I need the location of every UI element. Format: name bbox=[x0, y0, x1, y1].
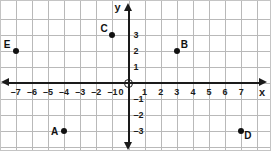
x-tick-label-3: 3 bbox=[174, 88, 179, 97]
y-axis-label: y bbox=[115, 2, 121, 13]
tick-and-axis-labels: –7–6–5–4–3–2–11234567321–1–2–30xy bbox=[0, 0, 271, 151]
x-tick-label--5: –5 bbox=[43, 88, 53, 97]
y-tick-label--2: –2 bbox=[134, 111, 144, 120]
x-tick-label--3: –3 bbox=[75, 88, 85, 97]
coordinate-plane-figure: ABCDE –7–6–5–4–3–2–11234567321–1–2–30xy bbox=[0, 0, 271, 151]
y-tick-label-1: 1 bbox=[134, 62, 139, 71]
x-tick-label--2: –2 bbox=[91, 88, 101, 97]
x-tick-label--7: –7 bbox=[11, 88, 21, 97]
x-tick-label--4: –4 bbox=[59, 88, 69, 97]
origin-zero-label: 0 bbox=[119, 88, 124, 97]
x-tick-label-6: 6 bbox=[223, 88, 228, 97]
y-tick-label-2: 2 bbox=[134, 46, 139, 55]
x-tick-label-7: 7 bbox=[239, 88, 244, 97]
x-tick-label-5: 5 bbox=[206, 88, 211, 97]
y-tick-label--3: –3 bbox=[134, 127, 144, 136]
y-tick-label-3: 3 bbox=[134, 30, 139, 39]
x-tick-label--1: –1 bbox=[107, 88, 117, 97]
x-tick-label--6: –6 bbox=[27, 88, 37, 97]
x-tick-label-4: 4 bbox=[190, 88, 195, 97]
y-tick-label--1: –1 bbox=[134, 95, 144, 104]
x-tick-label-2: 2 bbox=[158, 88, 163, 97]
x-axis-label: x bbox=[259, 87, 265, 98]
